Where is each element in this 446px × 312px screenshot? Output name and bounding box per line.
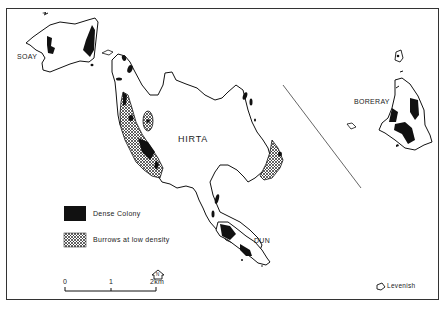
map-canvas <box>0 0 446 312</box>
legend-label-dense-colony: Dense Colony <box>93 210 141 217</box>
scale-bar <box>65 287 156 291</box>
scale-tick-0: 0 <box>63 278 67 285</box>
legend-label-low-density: Burrows at low density <box>93 236 170 243</box>
inset-divider-line <box>283 85 361 188</box>
north-arrow-label: N <box>156 272 160 277</box>
legend-low-density-swatch <box>64 233 86 247</box>
scale-tick-2km: 2km <box>150 278 164 285</box>
label-soay: SOAY <box>17 53 37 60</box>
soay-island <box>26 12 113 72</box>
label-dun: DUN <box>254 237 270 244</box>
levenish-islet <box>377 283 385 290</box>
label-hirta: HIRTA <box>178 134 208 144</box>
label-boreray: BORERAY <box>354 98 390 105</box>
hirta-island <box>112 54 283 250</box>
legend-dense-colony-swatch <box>64 206 86 221</box>
scale-tick-1: 1 <box>109 278 113 285</box>
label-levenish: Levenish <box>387 282 415 289</box>
